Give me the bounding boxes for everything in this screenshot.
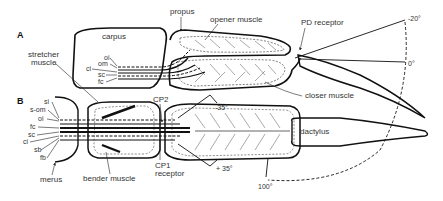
- pd-receptor-label: PD receptor: [301, 18, 344, 27]
- label-a-om: om: [98, 60, 108, 67]
- dactylus-label: dactylus: [300, 127, 329, 136]
- label-a-fc: fc: [98, 78, 104, 85]
- propus-label: propus: [170, 7, 194, 16]
- label-b-ci: ci: [23, 138, 29, 145]
- label-b-fb: fb: [40, 154, 46, 161]
- bender-muscle-outline: [94, 106, 154, 154]
- closer-muscle-outline: [178, 59, 285, 86]
- angle-zero: 0°: [408, 60, 415, 67]
- angle-minus20: -20°: [408, 15, 421, 22]
- closer-leader: [265, 82, 302, 96]
- closer-muscle-label: closer muscle: [305, 91, 354, 100]
- opener-muscle-outline: [180, 36, 284, 52]
- muscle-fiber-hatching: [195, 39, 276, 82]
- crustacean-limb-diagram: A carpus oi om ci sc fc stretcher muscle…: [0, 0, 443, 201]
- cp1-receptor-label: receptor: [155, 169, 185, 178]
- angle-100: 100°: [258, 183, 273, 190]
- propus-segment: [169, 30, 300, 90]
- merus-arrow: [52, 163, 55, 175]
- label-b-sc: sc: [28, 131, 36, 138]
- label-b-oi: oi: [38, 115, 44, 122]
- bender-muscle-label: bender muscle: [83, 174, 136, 183]
- label-b-si: si: [44, 98, 50, 105]
- stretcher-leader: [55, 63, 98, 102]
- propus-b-hatching: [195, 113, 280, 150]
- opener-muscle-label: opener muscle: [210, 15, 263, 24]
- angle-line-zero: [300, 59, 405, 62]
- merus-label: merus: [40, 175, 62, 184]
- label-b-s-om: s-om: [30, 106, 46, 113]
- stretcher-label-line2: muscle: [31, 58, 57, 67]
- merus-segment: [55, 97, 78, 162]
- pd-receptor-arrow: [300, 28, 305, 50]
- bender-muscle-bands: [102, 106, 135, 152]
- label-a-sc: sc: [98, 71, 106, 78]
- nerve-bundle-b: [60, 120, 190, 140]
- propus-b-muscle-outline: [172, 108, 294, 156]
- angle-minus35: -35°: [215, 104, 228, 111]
- label-a-ci: ci: [86, 65, 92, 72]
- carpus-label: carpus: [102, 32, 126, 41]
- diagram-canvas: A carpus oi om ci sc fc stretcher muscle…: [0, 0, 443, 201]
- bender-leader: [106, 152, 110, 174]
- panel-b-letter: B: [17, 96, 24, 106]
- angle-plus35: + 35°: [216, 165, 233, 172]
- angle-line-100: [266, 158, 268, 177]
- label-b-sb: sb: [34, 146, 42, 153]
- cp2-label: CP2: [153, 95, 169, 104]
- panel-a-letter: A: [17, 30, 24, 40]
- label-b-fc: fc: [30, 123, 36, 130]
